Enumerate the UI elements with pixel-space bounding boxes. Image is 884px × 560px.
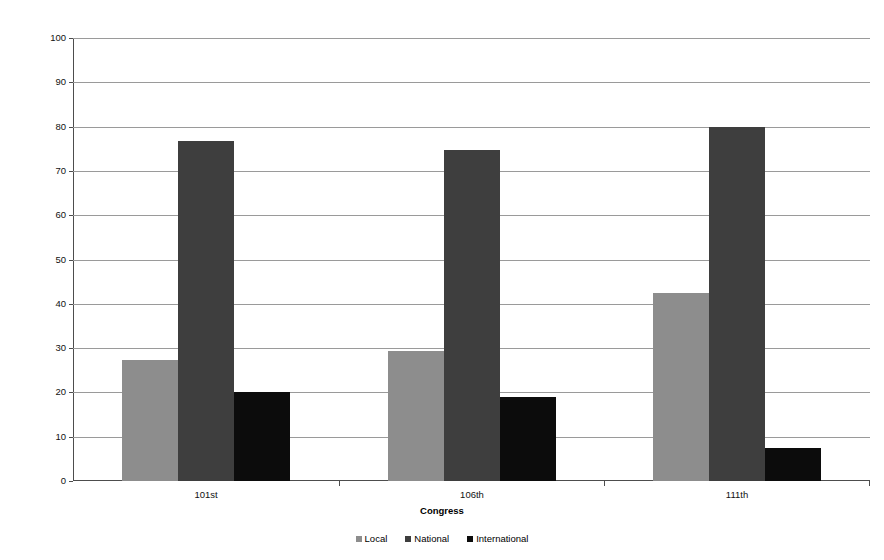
y-axis-tick bbox=[69, 38, 73, 39]
legend-label: International bbox=[476, 533, 528, 544]
y-axis-tick-label: 30 bbox=[4, 343, 66, 353]
legend-swatch-local bbox=[356, 536, 362, 542]
y-axis-tick-label: 40 bbox=[4, 299, 66, 309]
x-axis-title: Congress bbox=[0, 505, 884, 516]
y-axis-tick bbox=[69, 437, 73, 438]
x-axis-tick bbox=[339, 480, 340, 486]
y-axis-tick-label: 20 bbox=[4, 387, 66, 397]
x-axis-tick bbox=[869, 480, 870, 486]
y-axis-tick bbox=[69, 127, 73, 128]
y-axis-tick-label: 90 bbox=[4, 77, 66, 87]
y-axis-tick bbox=[69, 82, 73, 83]
y-axis-tick-label: 80 bbox=[4, 122, 66, 132]
plot-area bbox=[73, 38, 870, 481]
y-axis-tick bbox=[69, 348, 73, 349]
legend-item-local: Local bbox=[356, 533, 388, 544]
y-axis-tick bbox=[69, 171, 73, 172]
y-axis-tick bbox=[69, 481, 73, 482]
y-axis-tick-label: 70 bbox=[4, 166, 66, 176]
legend-swatch-international bbox=[467, 536, 473, 542]
bar-local-111th bbox=[653, 293, 709, 481]
y-axis-tick-label: 0 bbox=[4, 476, 66, 486]
x-axis-tick-label: 101st bbox=[146, 489, 266, 500]
x-axis-tick-label: 106th bbox=[412, 489, 532, 500]
legend-item-international: International bbox=[467, 533, 528, 544]
y-axis-tick bbox=[69, 215, 73, 216]
x-axis-tick-label: 111th bbox=[677, 489, 797, 500]
legend-item-national: National bbox=[405, 533, 449, 544]
y-axis-tick-label: 60 bbox=[4, 210, 66, 220]
y-axis-tick-label: 100 bbox=[4, 33, 66, 43]
legend-swatch-national bbox=[405, 536, 411, 542]
bar-international-106th bbox=[500, 397, 556, 481]
legend-label: Local bbox=[365, 533, 388, 544]
x-axis-tick bbox=[604, 480, 605, 486]
legend-label: National bbox=[414, 533, 449, 544]
gridline bbox=[73, 38, 870, 39]
bar-international-111th bbox=[765, 448, 821, 481]
y-axis-tick-label: 10 bbox=[4, 432, 66, 442]
bar-international-101st bbox=[234, 392, 290, 481]
y-axis-tick bbox=[69, 260, 73, 261]
bar-national-106th bbox=[444, 150, 500, 481]
bar-local-106th bbox=[388, 351, 444, 481]
bar-chart: Percentage of Speeches 01020304050607080… bbox=[0, 0, 884, 560]
y-axis-tick bbox=[69, 304, 73, 305]
bar-national-111th bbox=[709, 127, 765, 481]
bar-local-101st bbox=[122, 360, 178, 481]
bar-national-101st bbox=[178, 141, 234, 481]
gridline bbox=[73, 82, 870, 83]
y-axis-tick-labels: 0102030405060708090100 bbox=[0, 38, 66, 481]
y-axis-tick-label: 50 bbox=[4, 255, 66, 265]
chart-legend: LocalNationalInternational bbox=[0, 533, 884, 544]
y-axis-tick bbox=[69, 392, 73, 393]
